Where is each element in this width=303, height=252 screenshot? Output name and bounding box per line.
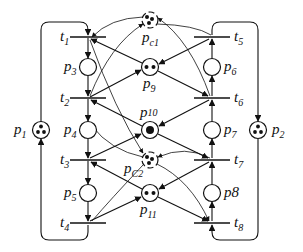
label-t5: t5	[234, 28, 243, 47]
label-t2: t2	[60, 89, 69, 108]
arc-pc1-t1	[92, 17, 143, 37]
place-p7[interactable]	[204, 122, 221, 139]
label-p10: p10	[139, 104, 158, 120]
place-p5[interactable]	[80, 185, 97, 202]
label-t8: t8	[234, 214, 243, 233]
label-p2: p2	[271, 121, 285, 140]
label-t4: t4	[60, 214, 69, 233]
petri-net-diagram: t1 t2 t3 t4 t5 t6 t7 t8 p1 p2 p3 p4 p5 p…	[0, 0, 303, 252]
place-p6[interactable]	[204, 59, 221, 76]
label-p7: p7	[223, 121, 238, 140]
place-p2[interactable]	[250, 122, 267, 139]
place-pc2[interactable]	[142, 152, 158, 168]
label-t1: t1	[60, 28, 69, 47]
label-p1: p1	[13, 121, 27, 140]
place-p1[interactable]	[33, 122, 50, 139]
label-p3: p3	[63, 58, 77, 77]
place-p3[interactable]	[80, 59, 97, 76]
arc-t1-pc2	[90, 40, 143, 153]
label-p4: p4	[63, 121, 77, 140]
arc-t7-pc2	[158, 151, 210, 158]
label-p6: p6	[223, 58, 237, 77]
place-p4[interactable]	[80, 122, 97, 139]
arc-pc1-t5	[157, 24, 211, 35]
label-p11: p11	[139, 201, 157, 220]
label-p8: p8	[223, 184, 240, 200]
label-t3: t3	[60, 151, 69, 170]
label-t6: t6	[234, 89, 243, 108]
place-p9[interactable]	[142, 59, 159, 76]
place-pc1[interactable]	[142, 12, 158, 28]
label-p5: p5	[63, 184, 77, 203]
arc-pc2-t3	[92, 126, 143, 157]
place-p8[interactable]	[204, 185, 221, 202]
label-t7: t7	[234, 151, 244, 170]
label-p9: p9	[142, 75, 156, 94]
arc-pc2-t8	[157, 164, 209, 221]
label-pc2: pC2	[123, 160, 143, 179]
place-p11[interactable]	[142, 185, 159, 202]
label-pc1: pc1	[141, 29, 159, 48]
